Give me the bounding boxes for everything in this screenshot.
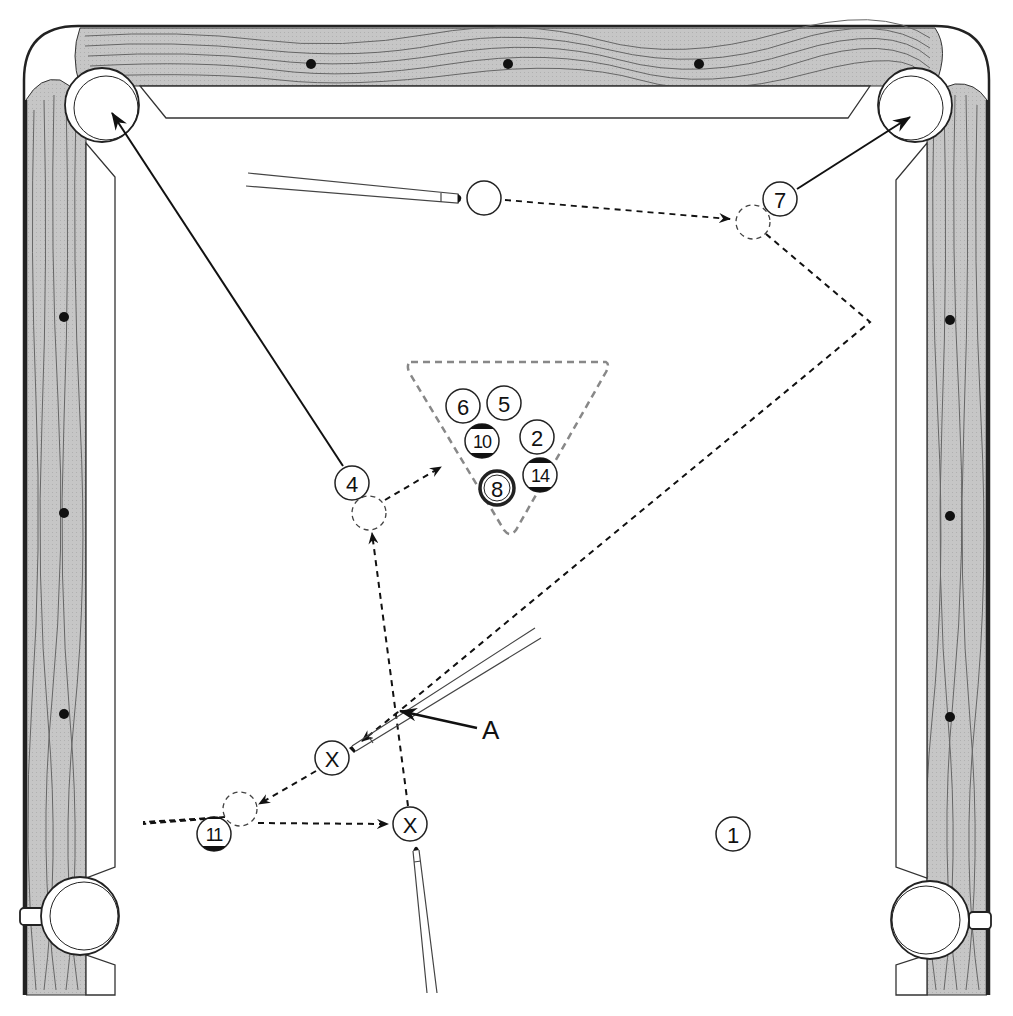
ball-6: 6 [446,389,480,423]
diamond-top-2 [503,59,513,69]
top-rail [75,20,943,89]
svg-text:6: 6 [457,395,469,420]
ball-4: 4 [335,466,369,500]
diamond-left-2 [59,508,69,518]
left-rail [26,79,86,995]
diamond-left-3 [59,709,69,719]
pocket-top-left [65,68,139,142]
diamond-right-1 [945,315,955,325]
svg-text:4: 4 [346,472,358,497]
ball-14: 14 [523,458,557,492]
cue-position-x1: X [315,741,349,775]
svg-text:5: 5 [498,392,510,417]
ball-10: 10 [465,424,499,458]
diamond-right-2 [945,511,955,521]
right-rail [926,84,987,995]
svg-text:7: 7 [774,188,786,213]
svg-text:14: 14 [531,466,550,486]
ball-2: 2 [520,420,554,454]
diamond-right-3 [945,712,955,722]
cue-position-x2: X [393,807,427,841]
svg-text:X: X [403,813,418,838]
ball-7: 7 [763,182,797,216]
svg-text:2: 2 [531,426,543,451]
ball-1: 1 [716,817,750,851]
ball-5: 5 [487,386,521,420]
diamond-top-3 [694,59,704,69]
svg-text:11: 11 [206,825,224,845]
cue-ball [467,181,501,215]
svg-text:1: 1 [727,823,739,848]
diamond-top-1 [306,59,316,69]
annotation-a-label: A [482,715,500,745]
diamond-left-1 [59,312,69,322]
ball-8: 8 [480,471,514,505]
svg-text:8: 8 [491,477,503,502]
pool-table-diagram: 7 4 6 5 10 2 14 [0,0,1013,1016]
svg-text:X: X [325,747,340,772]
ball-11: 11 [197,817,231,851]
table-frame [24,26,989,995]
svg-text:10: 10 [473,432,492,452]
